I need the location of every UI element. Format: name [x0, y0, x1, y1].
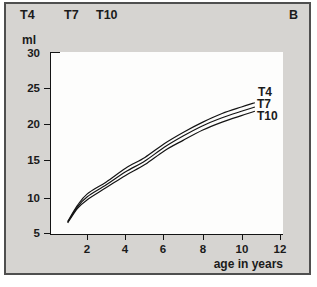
y-tick-25 [44, 88, 50, 89]
x-tick-label-10: 10 [232, 243, 252, 255]
curve-label-t10: T10 [257, 110, 278, 122]
legend-item-t10: T10 [96, 9, 118, 21]
legend-item-t7: T7 [64, 9, 79, 21]
figure-root: T4 T7 T10 B ml 30 25 20 15 10 5 2 4 6 8 … [0, 0, 317, 287]
y-tick-10 [44, 198, 50, 199]
x-tick-label-6: 6 [153, 243, 173, 255]
x-tick-8 [203, 235, 204, 240]
x-tick-10 [242, 235, 243, 240]
x-tick-label-2: 2 [77, 243, 97, 255]
x-tick-label-8: 8 [193, 243, 213, 255]
y-axis-top-tick [50, 52, 60, 53]
y-axis-unit-label: ml [22, 34, 36, 46]
y-tick-label-25: 25 [14, 82, 40, 94]
x-axis-title: age in years [180, 258, 283, 271]
plot-area [50, 52, 283, 235]
x-tick-2 [87, 235, 88, 240]
x-tick-label-12: 12 [270, 243, 290, 255]
panel-letter-label: B [289, 9, 298, 21]
x-tick-6 [163, 235, 164, 240]
y-tick-5 [44, 233, 50, 234]
y-tick-15 [44, 160, 50, 161]
y-tick-label-10: 10 [14, 192, 40, 204]
x-tick-12 [280, 235, 281, 240]
legend-item-t4: T4 [20, 9, 35, 21]
y-tick-label-30: 30 [14, 47, 40, 59]
x-tick-4 [125, 235, 126, 240]
y-tick-label-20: 20 [14, 118, 40, 130]
y-tick-20 [44, 124, 50, 125]
y-tick-label-5: 5 [14, 227, 40, 239]
y-tick-label-15: 15 [14, 154, 40, 166]
x-tick-label-4: 4 [115, 243, 135, 255]
